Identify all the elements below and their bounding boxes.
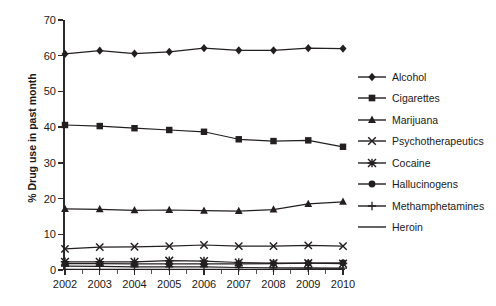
legend-item-heroin[interactable]: Heroin (357, 217, 495, 239)
x-axis-tick (99, 270, 100, 275)
data-point-diamond (131, 49, 138, 57)
data-point-diamond (368, 73, 375, 81)
x-axis-tick-label: 2007 (227, 278, 251, 290)
x-axis-tick-label: 2008 (261, 278, 285, 290)
legend-label: Heroin (392, 222, 423, 233)
legend-item-cocaine[interactable]: Cocaine (357, 152, 495, 174)
data-point-diamond (340, 44, 347, 52)
data-point-circle (369, 181, 376, 188)
y-axis-tick-label: 40 (44, 121, 56, 133)
x-axis-minor-tick (256, 270, 257, 274)
x-axis-tick-label: 2003 (88, 278, 112, 290)
legend-label: Methamphetamines (392, 201, 484, 212)
x-axis-tick-label: 2002 (53, 278, 77, 290)
data-point-square (97, 123, 103, 129)
data-point-diamond (201, 44, 208, 52)
legend-marker-line-icon (357, 219, 387, 235)
series-cigarettes (62, 122, 346, 150)
data-point-diamond (62, 50, 69, 58)
data-point-square (270, 138, 276, 144)
x-axis-minor-tick (117, 270, 118, 274)
data-point-square (340, 144, 346, 150)
legend-marker-triangle-icon (357, 112, 387, 128)
data-point-asterisk (368, 158, 377, 167)
legend-item-hallucinogens[interactable]: Hallucinogens (357, 174, 495, 196)
data-point-square (305, 137, 311, 143)
y-axis-tick-label: 70 (44, 14, 56, 26)
data-point-triangle (200, 206, 208, 213)
x-axis-tick-label: 2004 (122, 278, 146, 290)
y-axis-tick-label: 50 (44, 85, 56, 97)
data-point-triangle (339, 197, 347, 204)
data-point-triangle (61, 205, 69, 212)
data-point-diamond (96, 47, 103, 55)
y-axis-title: % Drug use in past month (26, 48, 38, 228)
data-point-square (369, 95, 376, 102)
data-point-square (201, 129, 207, 135)
x-axis-minor-tick (82, 270, 83, 274)
data-point-diamond (166, 48, 173, 56)
legend-item-methamphetamines[interactable]: Methamphetamines (357, 195, 495, 217)
legend-label: Cocaine (392, 158, 431, 169)
x-axis-minor-tick (290, 270, 291, 274)
legend-label: Marijuana (392, 115, 438, 126)
legend-item-cigarettes[interactable]: Cigarettes (357, 88, 495, 110)
line-chart: % Drug use in past month 010203040506070… (0, 0, 496, 306)
series-psychotherapeutics (61, 241, 346, 252)
legend-marker-x-icon (357, 133, 387, 149)
legend-label: Alcohol (392, 72, 426, 83)
legend-marker-plus-icon (357, 198, 387, 214)
legend-marker-square-icon (357, 90, 387, 106)
data-point-square (166, 127, 172, 133)
data-point-square (131, 125, 137, 131)
x-axis-tick (64, 270, 65, 275)
x-axis-minor-tick (186, 270, 187, 274)
legend-marker-diamond-icon (357, 69, 387, 85)
legend-marker-circle-icon (357, 176, 387, 192)
legend-item-alcohol[interactable]: Alcohol (357, 66, 495, 88)
data-point-diamond (270, 46, 277, 54)
x-axis-tick-label: 2010 (331, 278, 355, 290)
data-point-diamond (305, 44, 312, 52)
plot-area: 010203040506070 200220032004200520062007… (63, 20, 345, 270)
data-point-square (62, 122, 68, 128)
x-axis-minor-tick (221, 270, 222, 274)
x-axis-tick-label: 2005 (157, 278, 181, 290)
legend: AlcoholCigarettesMarijuanaPsychotherapeu… (357, 66, 495, 238)
x-axis-minor-tick (325, 270, 326, 274)
data-point-square (236, 136, 242, 142)
legend-marker-asterisk-icon (357, 155, 387, 171)
legend-label: Hallucinogens (392, 179, 458, 190)
y-axis-tick-label: 0 (50, 264, 56, 276)
x-axis-minor-tick (151, 270, 152, 274)
data-point-diamond (235, 46, 242, 54)
x-axis-tick-label: 2009 (296, 278, 320, 290)
series-marijuana (61, 197, 347, 214)
y-axis-tick-label: 30 (44, 157, 56, 169)
legend-item-marijuana[interactable]: Marijuana (357, 109, 495, 131)
x-axis-tick-label: 2006 (192, 278, 216, 290)
legend-label: Psychotherapeutics (392, 136, 484, 147)
series-alcohol (62, 44, 347, 58)
data-point-triangle (96, 205, 104, 212)
data-point-plus (368, 202, 376, 210)
y-axis-tick-label: 60 (44, 50, 56, 62)
series-layer (63, 20, 345, 270)
data-point-triangle (165, 206, 173, 213)
y-axis-tick-label: 20 (44, 193, 56, 205)
legend-label: Cigarettes (392, 93, 440, 104)
y-axis-tick-label: 10 (44, 228, 56, 240)
legend-item-psychotherapeutics[interactable]: Psychotherapeutics (357, 131, 495, 153)
